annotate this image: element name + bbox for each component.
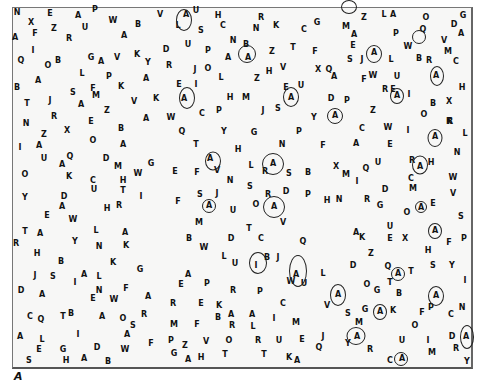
letter: T bbox=[222, 351, 227, 359]
letter: S bbox=[50, 273, 56, 281]
letter: P bbox=[257, 288, 263, 296]
figure-caption: A bbox=[14, 370, 23, 383]
letter: I bbox=[427, 337, 430, 345]
letter: M bbox=[114, 163, 122, 171]
pen-circle-mark bbox=[390, 88, 404, 104]
letter: D bbox=[18, 287, 25, 295]
letter: R bbox=[229, 322, 235, 330]
letter: V bbox=[450, 190, 456, 198]
letter: S bbox=[347, 56, 353, 64]
letter: A bbox=[121, 32, 127, 40]
letter: B bbox=[14, 84, 20, 92]
letter: N bbox=[459, 304, 466, 312]
pen-circle-mark bbox=[327, 108, 343, 124]
letter: Q bbox=[18, 57, 25, 65]
pen-circle-mark bbox=[347, 327, 366, 345]
letter: A bbox=[249, 311, 255, 319]
letter: F bbox=[194, 169, 199, 177]
letter: K bbox=[286, 354, 292, 362]
letter: A bbox=[145, 293, 151, 301]
letter: M bbox=[428, 349, 436, 357]
letter: O bbox=[421, 111, 428, 119]
letter: T bbox=[408, 268, 413, 276]
letter: C bbox=[220, 22, 226, 30]
letter: H bbox=[215, 12, 222, 20]
letter: K bbox=[66, 173, 72, 181]
letter: Q bbox=[67, 153, 74, 161]
letter: Y bbox=[464, 358, 470, 366]
letter: C bbox=[387, 357, 393, 365]
letter: R bbox=[426, 57, 432, 65]
letter: Z bbox=[368, 250, 374, 258]
letter: A bbox=[122, 229, 128, 237]
letter: X bbox=[333, 163, 339, 171]
letter: S bbox=[430, 262, 436, 270]
letter: H bbox=[235, 146, 242, 154]
letter: U bbox=[298, 82, 305, 90]
letter: G bbox=[377, 202, 384, 210]
letter: C bbox=[359, 125, 365, 133]
letter: O bbox=[120, 315, 127, 323]
letter: W bbox=[167, 114, 176, 122]
letter: D bbox=[283, 188, 290, 196]
pen-circle-mark bbox=[460, 325, 474, 349]
letter: R bbox=[382, 86, 388, 94]
letter: T bbox=[22, 228, 27, 236]
letter: O bbox=[22, 171, 29, 179]
letter: G bbox=[460, 12, 467, 20]
letter: T bbox=[261, 351, 266, 359]
letter: S bbox=[26, 357, 32, 365]
letter: W bbox=[110, 296, 119, 304]
letter: D bbox=[449, 333, 456, 341]
letter: K bbox=[390, 307, 396, 315]
letter: W bbox=[384, 124, 393, 132]
letter: C bbox=[27, 313, 33, 321]
letter: H bbox=[227, 94, 234, 102]
letter: U bbox=[232, 260, 239, 268]
letter: L bbox=[221, 253, 226, 261]
letter: G bbox=[88, 54, 95, 62]
letter: P bbox=[106, 73, 112, 81]
letter: A bbox=[185, 356, 191, 364]
letter: A bbox=[143, 115, 149, 123]
letter: K bbox=[273, 22, 279, 30]
letter: A bbox=[39, 291, 45, 299]
letter: I bbox=[407, 127, 410, 135]
letter: T bbox=[290, 44, 295, 52]
pen-circle-mark bbox=[262, 153, 284, 175]
letter: K bbox=[216, 302, 222, 310]
letter: I bbox=[356, 178, 359, 186]
letter: R bbox=[13, 240, 19, 248]
letter: H bbox=[428, 159, 435, 167]
letter: D bbox=[228, 235, 235, 243]
letter: W bbox=[404, 43, 413, 51]
letter: P bbox=[461, 235, 467, 243]
letter: D bbox=[350, 262, 357, 270]
letter: Y bbox=[221, 128, 227, 136]
letter: P bbox=[168, 337, 174, 345]
letter: V bbox=[131, 98, 137, 106]
letter: A bbox=[294, 357, 300, 365]
letter: D bbox=[382, 186, 389, 194]
letter: V bbox=[441, 37, 447, 45]
pen-circle-mark bbox=[205, 152, 221, 171]
letter: Y bbox=[449, 262, 455, 270]
letter: Z bbox=[254, 75, 260, 83]
letter: W bbox=[134, 170, 143, 178]
letter: N bbox=[227, 177, 234, 185]
letter: V bbox=[157, 11, 163, 19]
letter: U bbox=[399, 337, 406, 345]
letter: R bbox=[51, 113, 57, 121]
letter: X bbox=[402, 235, 408, 243]
letter: M bbox=[342, 23, 350, 31]
letter: B bbox=[118, 125, 124, 133]
letter: U bbox=[91, 186, 98, 194]
letter: M bbox=[292, 319, 300, 327]
letter: L bbox=[388, 56, 393, 64]
letter: U bbox=[276, 337, 283, 345]
letter: B bbox=[68, 310, 74, 318]
letter: O bbox=[45, 62, 52, 70]
pen-circle-mark bbox=[412, 156, 428, 175]
letter: Z bbox=[104, 107, 110, 115]
letter: M bbox=[444, 48, 452, 56]
